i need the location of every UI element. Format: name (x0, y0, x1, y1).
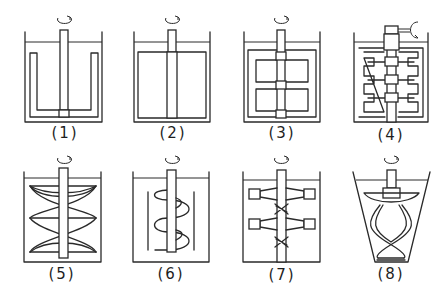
panel-label-1: (1) (51, 124, 78, 142)
rotation-arrow-icon (275, 156, 289, 163)
panel-1-anchor-impeller (25, 16, 102, 122)
rotation-arrow-icon (385, 156, 399, 163)
impeller-diagram-figure: (1) (2) (3) (4) (5) (6) (7) (8) (0, 0, 448, 297)
hub (167, 52, 177, 118)
panel-3-gate-impeller (244, 16, 320, 122)
hub (385, 57, 398, 66)
rotation-arrow-icon (166, 156, 180, 163)
panel-8-conical-helical-impeller (353, 156, 430, 262)
panel-label-2: (2) (159, 124, 186, 142)
ribbon-base (377, 258, 405, 260)
ribbon-helix-inner (376, 205, 407, 242)
blade-tip (304, 189, 315, 199)
shaft (60, 30, 68, 112)
shaft (167, 170, 176, 252)
shaft (277, 30, 285, 117)
panel-label-6: (6) (157, 265, 184, 283)
hub (276, 81, 286, 89)
shaft (59, 168, 68, 258)
rotation-arrow-icon (166, 16, 180, 23)
panel-label-4: (4) (377, 126, 404, 144)
panel-5-helical-ribbon-impeller (24, 156, 101, 262)
tapered-blade (260, 188, 277, 200)
hub (276, 52, 286, 60)
hub (276, 110, 286, 118)
panel-2-paddle-impeller (134, 16, 210, 122)
blade-tip (304, 219, 315, 229)
shaft (387, 170, 396, 188)
rotation-arrow-icon (275, 16, 289, 23)
ribbon-helix (371, 205, 412, 258)
tapered-blade (286, 218, 304, 230)
shaft (277, 170, 286, 262)
panel-label-7: (7) (268, 266, 295, 284)
drive-belt (398, 29, 410, 32)
impeller-diagrams-svg (0, 0, 448, 297)
panel-label-8: (8) (377, 265, 404, 283)
rotation-arrow-icon (58, 156, 72, 163)
panel-4-finger-impeller (354, 22, 428, 122)
tapered-blade (286, 188, 304, 200)
drive-housing (384, 34, 399, 50)
tapered-blade (260, 218, 277, 230)
panel-label-3: (3) (268, 124, 295, 142)
rotation-arrow-icon (58, 16, 72, 23)
hub (385, 75, 398, 84)
hub (385, 93, 398, 102)
panel-6-helical-screw-impeller (133, 156, 209, 262)
blade-tip (249, 219, 260, 229)
rotation-arrow-icon (411, 22, 419, 38)
drive-coupling (385, 26, 398, 34)
shaft (168, 30, 176, 52)
panel-7-multistage-paddle-impeller (243, 156, 320, 262)
blade-tip (249, 189, 260, 199)
hub (59, 110, 69, 117)
panel-label-5: (5) (48, 265, 75, 283)
